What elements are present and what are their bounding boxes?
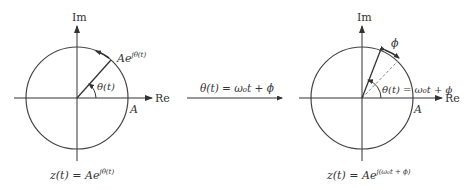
left-re-label: Re bbox=[155, 92, 170, 105]
transform-arrow-label: θ(t) = ω₀t + ϕ bbox=[200, 82, 274, 94]
right-angle-arc bbox=[368, 80, 381, 98]
right-angle-label: θ(t) = ω₀t + ϕ bbox=[382, 84, 452, 95]
left-im-label: Im bbox=[72, 11, 87, 24]
left-rotation-arrow bbox=[96, 51, 109, 58]
left-angle-arc bbox=[89, 84, 96, 98]
right-phasor-vector bbox=[362, 49, 381, 98]
right-diagram: Im Re A ϕ θ(t) = ω₀t + ϕ z(t) = Aej(ω₀t … bbox=[299, 11, 460, 182]
left-caption: z(t) = Aejθ(t) bbox=[49, 168, 114, 182]
right-im-label: Im bbox=[357, 11, 372, 24]
transform-arrow: θ(t) = ω₀t + ϕ bbox=[187, 82, 282, 98]
left-angle-label: θ(t) bbox=[97, 81, 115, 92]
phasor-diagram: Im Re A θ(t) Aejθ(t) z(t) = Aejθ(t) θ(t)… bbox=[0, 0, 468, 190]
right-radius-label: A bbox=[413, 103, 422, 116]
left-phasor-vector bbox=[77, 60, 111, 98]
right-caption: z(t) = Aej(ω₀t + ϕ) bbox=[326, 168, 411, 182]
left-diagram: Im Re A θ(t) Aejθ(t) z(t) = Aejθ(t) bbox=[14, 11, 170, 182]
left-radius-label: A bbox=[129, 103, 138, 116]
left-phasor-label: Aejθ(t) bbox=[116, 51, 146, 65]
right-phase-label: ϕ bbox=[391, 37, 399, 50]
